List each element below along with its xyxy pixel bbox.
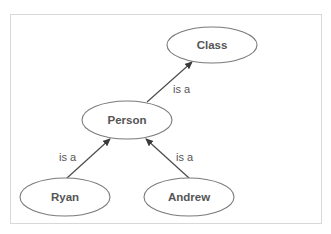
node-ryan[interactable]: Ryan: [20, 178, 110, 216]
node-label: Ryan: [51, 191, 79, 203]
edge-person-to-class: is a: [147, 62, 192, 102]
edge-label: is a: [176, 151, 194, 163]
node-label: Andrew: [168, 191, 210, 203]
edge-andrew-to-person: is a: [146, 139, 194, 178]
node-label: Person: [108, 114, 147, 126]
edge-label: is a: [59, 151, 77, 163]
class-hierarchy-diagram: is a is a is a Class Person Ryan Andrew: [0, 0, 331, 234]
is-a-arrow: [147, 62, 192, 102]
edge-ryan-to-person: is a: [59, 139, 110, 178]
node-person[interactable]: Person: [82, 101, 172, 139]
edge-label: is a: [173, 83, 191, 95]
node-label: Class: [197, 39, 228, 51]
node-class[interactable]: Class: [167, 27, 257, 63]
node-andrew[interactable]: Andrew: [144, 178, 234, 216]
